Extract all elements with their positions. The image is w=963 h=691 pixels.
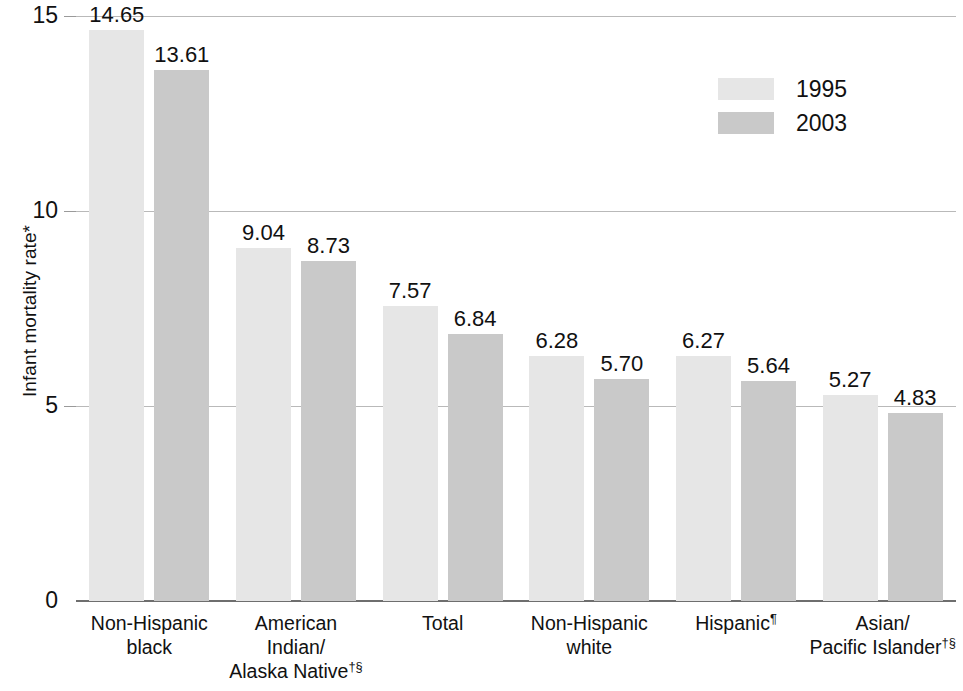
infant-mortality-bar-chart: Infant mortality rate* 05101514.6513.619… [0,0,963,691]
bar-2003-6 [888,413,943,601]
chart-legend: 19952003 [718,72,847,140]
bar-1995-6 [823,395,878,601]
bar-value-label: 5.64 [727,355,810,377]
y-tick-label-10: 10 [12,199,58,222]
legend-label-2003: 2003 [796,112,847,135]
bar-2003-1 [154,70,209,601]
category-label-line: Asian/ [779,612,963,636]
bar-value-label: 6.27 [662,330,745,352]
category-label-line: white [486,636,693,660]
y-tick-label-15: 15 [12,4,58,27]
bar-value-label: 4.83 [874,387,957,409]
y-tick-15 [64,16,76,17]
bar-1995-1 [89,30,144,601]
bar-1995-5 [676,356,731,601]
bar-2003-2 [301,261,356,601]
category-footnote-marker: †§ [348,658,362,673]
category-label-line: Indian/ [193,636,400,660]
bar-2003-3 [448,334,503,601]
bar-1995-3 [383,306,438,601]
y-tick-label-5: 5 [12,394,58,417]
bar-value-label: 13.61 [140,44,223,66]
x-axis-category-label-6: Asian/Pacific Islander†§ [779,612,963,660]
y-tick-label-0: 0 [12,589,58,612]
legend-swatch-2003 [718,112,774,134]
category-label-line: Pacific Islander†§ [779,636,963,660]
bar-value-label: 8.73 [287,235,370,257]
bar-2003-5 [741,381,796,601]
bar-value-label: 14.65 [75,4,158,26]
bar-1995-4 [529,356,584,601]
y-tick-10 [64,211,76,212]
legend-label-1995: 1995 [796,78,847,101]
category-footnote-marker: †§ [942,634,956,649]
bar-value-label: 5.70 [580,353,663,375]
category-footnote-marker: ¶ [770,611,777,626]
bar-2003-4 [594,379,649,601]
bar-value-label: 7.57 [369,280,452,302]
category-label-line: Alaska Native†§ [193,660,400,684]
bar-1995-2 [236,248,291,601]
bar-value-label: 6.84 [434,308,517,330]
legend-item-2003: 2003 [718,106,847,140]
legend-swatch-1995 [718,78,774,100]
y-tick-5 [64,406,76,407]
gridline-15 [76,16,956,17]
legend-item-1995: 1995 [718,72,847,106]
bar-value-label: 6.28 [515,330,598,352]
